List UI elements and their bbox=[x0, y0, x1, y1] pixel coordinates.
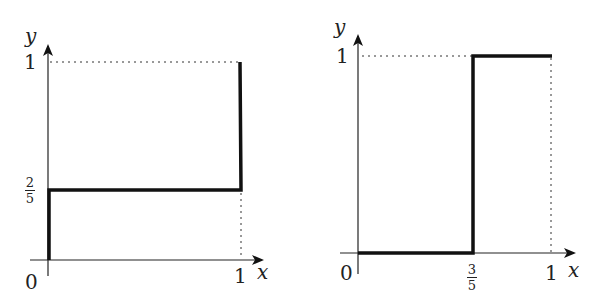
frac-num: 3 bbox=[468, 263, 476, 276]
left-step-line bbox=[49, 62, 241, 260]
right-ytick-1: 1 bbox=[336, 46, 349, 66]
right-xlabel: x bbox=[568, 260, 579, 280]
left-ylabel: y bbox=[25, 26, 36, 46]
left-xlabel: x bbox=[257, 262, 268, 282]
right-step-line bbox=[358, 56, 552, 253]
left-ytick-2-5: 25 bbox=[25, 176, 35, 205]
frac-den: 5 bbox=[26, 192, 34, 205]
right-xtick-1: 1 bbox=[545, 263, 558, 283]
charts-canvas bbox=[0, 0, 604, 305]
right-ylabel: y bbox=[334, 17, 345, 37]
left-ytick-1: 1 bbox=[24, 52, 37, 72]
left-origin: 0 bbox=[25, 272, 38, 292]
right-chart bbox=[340, 36, 574, 274]
left-xtick-1: 1 bbox=[234, 266, 247, 286]
frac-num: 2 bbox=[26, 176, 34, 189]
frac-den: 5 bbox=[468, 279, 476, 292]
left-chart bbox=[30, 46, 262, 276]
right-origin: 0 bbox=[340, 263, 353, 283]
right-xtick-3-5: 35 bbox=[467, 263, 477, 292]
